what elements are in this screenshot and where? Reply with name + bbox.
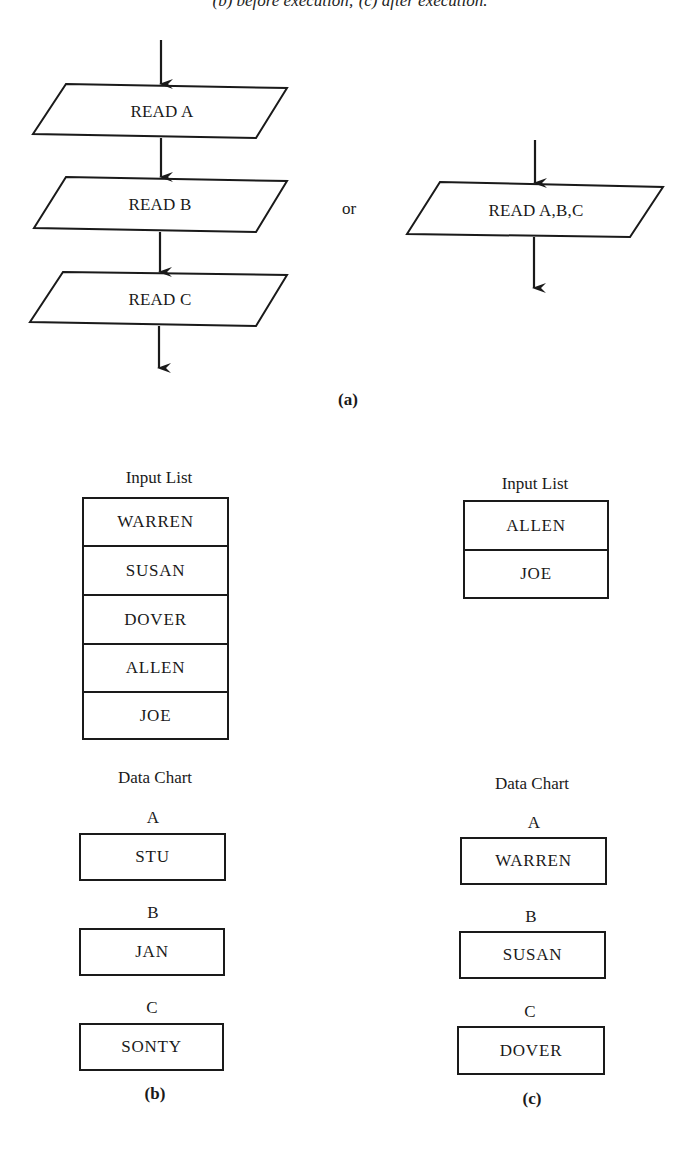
variable-name-c-b: C <box>146 998 157 1018</box>
variable-name-c-c: C <box>524 1002 535 1022</box>
variable-name-a-b: A <box>147 808 159 828</box>
data-chart-title-b: Data Chart <box>118 768 192 788</box>
input-list-title-c: Input List <box>502 474 569 494</box>
input-list-b: WARREN SUSAN DOVER ALLEN JOE <box>82 497 229 740</box>
read-abc-label: READ A,B,C <box>488 201 583 221</box>
variable-name-a-c: A <box>528 813 540 833</box>
input-list-item: SUSAN <box>84 547 227 596</box>
variable-box-a-b: STU <box>79 833 226 881</box>
variable-box-b-b: JAN <box>79 928 225 976</box>
caption-b: (b) <box>145 1084 166 1104</box>
variable-name-b-c: B <box>525 907 536 927</box>
variable-box-c-c: DOVER <box>457 1026 605 1075</box>
input-list-item: JOE <box>465 551 607 597</box>
caption-a: (a) <box>338 390 358 410</box>
input-list-title-b: Input List <box>126 468 193 488</box>
variable-name-b-b: B <box>147 903 158 923</box>
read-c-label: READ C <box>128 290 191 310</box>
input-list-item: ALLEN <box>84 645 227 693</box>
variable-box-b-c: SUSAN <box>459 931 606 979</box>
caption-c: (c) <box>523 1089 542 1109</box>
input-list-c: ALLEN JOE <box>463 500 609 599</box>
or-separator: or <box>342 199 356 219</box>
read-a-label: READ A <box>130 102 193 122</box>
read-b-label: READ B <box>128 195 191 215</box>
input-list-item: WARREN <box>84 499 227 547</box>
variable-box-a-c: WARREN <box>460 837 607 885</box>
data-chart-title-c: Data Chart <box>495 774 569 794</box>
input-list-item: JOE <box>84 693 227 738</box>
variable-box-c-b: SONTY <box>79 1023 224 1071</box>
input-list-item: ALLEN <box>465 502 607 551</box>
input-list-item: DOVER <box>84 596 227 645</box>
